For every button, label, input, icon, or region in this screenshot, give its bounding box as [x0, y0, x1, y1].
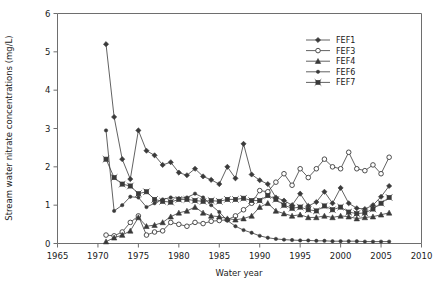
y-tick-label: 4	[45, 85, 50, 95]
x-tick-label: 1965	[47, 251, 69, 261]
legend-label-FEF6: FEF6	[336, 68, 355, 77]
x-tick-label: 1990	[249, 251, 271, 261]
data-point-FEF6	[371, 240, 374, 243]
data-point-FEF6	[315, 239, 318, 242]
y-tick-label: 6	[45, 9, 50, 19]
data-point-FEF3	[144, 233, 149, 238]
data-point-FEF3	[387, 155, 392, 160]
data-point-FEF3	[185, 224, 190, 229]
legend-marker-FEF3	[316, 48, 321, 53]
data-point-FEF6	[226, 219, 229, 222]
data-point-FEF3	[168, 220, 173, 225]
x-tick-label: 2010	[411, 251, 433, 261]
data-point-FEF3	[322, 157, 327, 162]
data-point-FEF6	[209, 203, 212, 206]
data-point-FEF3	[371, 163, 376, 168]
data-point-FEF3	[298, 166, 303, 171]
x-tick-label: 2005	[370, 251, 392, 261]
legend-label-FEF3: FEF3	[336, 47, 355, 56]
data-point-FEF3	[363, 168, 368, 173]
legend-label-FEF7: FEF7	[336, 78, 355, 87]
data-point-FEF3	[314, 166, 319, 171]
legend-label-FEF4: FEF4	[336, 57, 355, 66]
data-point-FEF6	[282, 238, 285, 241]
data-point-FEF3	[346, 150, 351, 155]
legend-label-FEF1: FEF1	[336, 36, 355, 45]
data-point-FEF3	[306, 175, 311, 180]
x-tick-label: 1985	[208, 251, 230, 261]
legend-marker-FEF6	[316, 70, 319, 73]
x-tick-label: 1975	[128, 251, 150, 261]
data-point-FEF6	[347, 240, 350, 243]
data-point-FEF6	[129, 195, 132, 198]
y-tick-label: 5	[45, 47, 50, 57]
data-point-FEF3	[338, 166, 343, 171]
data-point-FEF6	[104, 129, 107, 132]
data-point-FEF6	[355, 240, 358, 243]
data-point-FEF3	[201, 221, 206, 226]
data-point-FEF6	[201, 196, 204, 199]
y-tick-label: 1	[45, 200, 50, 210]
y-tick-label: 3	[45, 124, 50, 134]
data-point-FEF6	[258, 234, 261, 237]
data-point-FEF6	[121, 203, 124, 206]
data-point-FEF6	[307, 239, 310, 242]
data-point-FEF6	[363, 240, 366, 243]
data-point-FEF6	[266, 236, 269, 239]
data-point-FEF6	[379, 240, 382, 243]
data-point-FEF3	[128, 220, 133, 225]
y-axis-label: Stream water nitrate concentrations (mg/…	[4, 35, 14, 220]
x-tick-label: 1970	[87, 251, 109, 261]
x-tick-label: 1995	[289, 251, 311, 261]
data-point-FEF3	[193, 220, 198, 225]
data-point-FEF6	[331, 240, 334, 243]
data-point-FEF6	[242, 228, 245, 231]
data-point-FEF3	[177, 222, 182, 227]
data-point-FEF6	[323, 239, 326, 242]
data-point-FEF6	[218, 210, 221, 213]
data-point-FEF3	[152, 230, 157, 235]
x-axis-label: Water year	[216, 268, 263, 278]
nitrate-concentration-line-chart: 1965197019751980198519901995200020052010…	[0, 0, 448, 282]
data-point-FEF3	[257, 188, 262, 193]
data-point-FEF3	[209, 219, 214, 224]
data-point-FEF3	[241, 207, 246, 212]
y-tick-label: 2	[45, 162, 50, 172]
data-point-FEF6	[298, 239, 301, 242]
data-point-FEF6	[153, 202, 156, 205]
chart-figure: 1965197019751980198519901995200020052010…	[0, 0, 448, 282]
x-tick-label: 2000	[330, 251, 352, 261]
data-point-FEF3	[290, 183, 295, 188]
data-point-FEF6	[137, 196, 140, 199]
data-point-FEF6	[290, 238, 293, 241]
data-point-FEF3	[160, 229, 165, 234]
data-point-FEF6	[387, 240, 390, 243]
data-point-FEF3	[274, 180, 279, 185]
data-point-FEF6	[250, 231, 253, 234]
data-point-FEF6	[112, 209, 115, 212]
data-point-FEF3	[354, 166, 359, 171]
data-point-FEF3	[330, 165, 335, 170]
data-point-FEF6	[193, 192, 196, 195]
data-point-FEF6	[145, 205, 148, 208]
x-tick-label: 1980	[168, 251, 190, 261]
y-tick-label: 0	[45, 239, 50, 249]
data-point-FEF6	[274, 237, 277, 240]
data-point-FEF6	[169, 196, 172, 199]
data-point-FEF3	[282, 171, 287, 176]
data-point-FEF6	[234, 225, 237, 228]
data-point-FEF3	[379, 171, 384, 176]
data-point-FEF3	[104, 233, 109, 238]
data-point-FEF6	[339, 240, 342, 243]
